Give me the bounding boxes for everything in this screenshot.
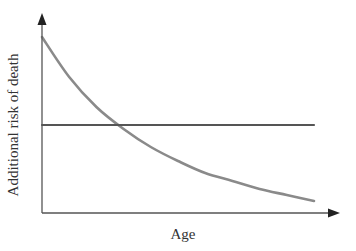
y-axis-arrow-icon [38, 13, 47, 25]
x-axis-arrow-icon [328, 209, 340, 218]
y-axis-label: Additional risk of death [5, 54, 22, 197]
series-layer [42, 37, 314, 201]
plot-area [0, 0, 356, 251]
decreasing-risk-curve [42, 37, 314, 201]
x-axis-label: Age [171, 226, 196, 243]
risk-vs-age-chart: Additional risk of death Age [0, 0, 356, 251]
